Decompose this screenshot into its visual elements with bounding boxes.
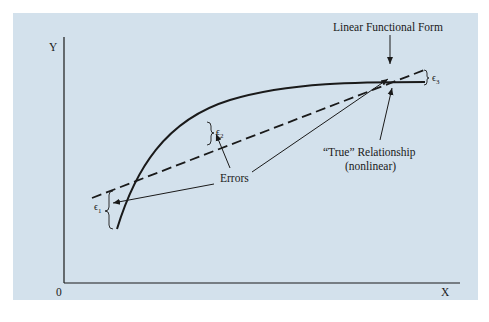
diagram-graphics xyxy=(0,0,489,322)
nonlinear-label: (nonlinear) xyxy=(345,161,396,173)
epsilon2-brace xyxy=(207,122,214,145)
errors-arrow-epsilon1 xyxy=(113,184,214,203)
epsilon2-label: ϵ2 xyxy=(216,127,224,140)
x-axis-label: X xyxy=(441,287,449,299)
true-relationship-label: “True” Relationship xyxy=(323,147,416,159)
linear-functional-form-label: Linear Functional Form xyxy=(333,22,443,34)
true-relationship-arrow xyxy=(380,88,392,140)
epsilon1-label: ϵ1 xyxy=(94,202,102,215)
origin-label: 0 xyxy=(56,287,62,299)
epsilon3-label: ϵ3 xyxy=(432,73,440,86)
y-axis-label: Y xyxy=(49,42,57,54)
errors-label: Errors xyxy=(220,173,249,185)
linear-functional-form-line xyxy=(92,69,427,198)
epsilon1-brace xyxy=(105,191,113,229)
